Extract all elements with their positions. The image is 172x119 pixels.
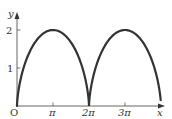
- x-tick-label-3pi: 3π: [118, 107, 131, 118]
- x-tick-label-2pi: 2π: [81, 107, 95, 118]
- x-axis-label: x: [157, 107, 163, 118]
- cycloid-chart: y 2 1 O π 2π 3π x: [0, 0, 172, 119]
- y-axis-arrow-icon: [15, 12, 20, 19]
- x-tick-label-pi: π: [48, 107, 56, 118]
- y-tick-label-2: 2: [6, 25, 12, 36]
- y-tick-label-1: 1: [7, 63, 13, 74]
- cycloid-curve: [17, 30, 161, 106]
- origin-label: O: [10, 107, 18, 118]
- y-axis-label: y: [7, 8, 14, 19]
